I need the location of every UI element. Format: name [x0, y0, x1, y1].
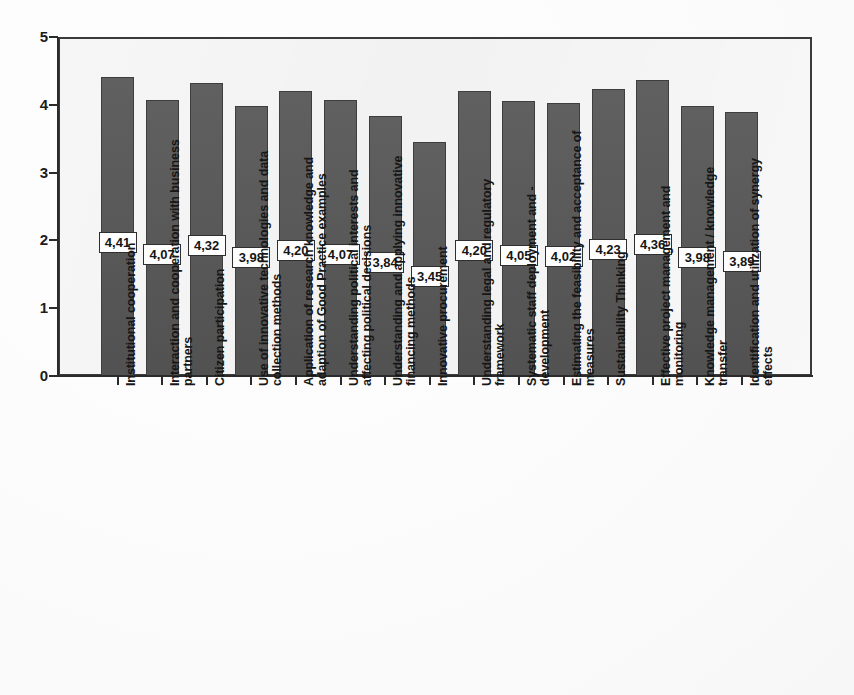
y-axis-line [57, 37, 59, 376]
x-axis-tick [429, 377, 431, 385]
x-axis-category-label[interactable]: Estimating the feasibility and acceptanc… [571, 131, 597, 386]
bar-chart: 012345 4,414,074,323,984,204,073,843,454… [0, 0, 854, 695]
category-label-line: Understanding political interests and [348, 170, 361, 386]
y-axis-tick-label: 0 [22, 368, 48, 383]
category-label-line: adaption of Good Practice examples [316, 157, 329, 386]
y-axis-tick-label: 2 [22, 232, 48, 247]
x-axis-category-label[interactable]: Interaction and cooperation with busines… [169, 139, 195, 386]
x-axis-tick [696, 377, 698, 385]
x-axis-tick [250, 377, 252, 385]
x-axis-tick [117, 377, 119, 385]
x-axis-tick [607, 377, 609, 385]
x-axis-tick [206, 377, 208, 385]
x-axis-category-label[interactable]: Innovative procurement [437, 247, 450, 387]
x-axis-tick [161, 377, 163, 385]
x-axis-tick [340, 377, 342, 385]
category-label-line: Identification and utilization of synerg… [749, 158, 762, 386]
x-axis-tick [384, 377, 386, 385]
category-label-line: collection methods [271, 151, 284, 386]
x-axis-tick [652, 377, 654, 385]
y-axis-tick [49, 104, 58, 106]
x-axis-tick [473, 377, 475, 385]
y-axis-tick-label: 3 [22, 165, 48, 180]
category-label-line: partners [182, 139, 195, 386]
y-axis-tick [49, 239, 58, 241]
x-axis-category-label[interactable]: Understanding legal and regulatoryframew… [481, 179, 507, 386]
category-label-line: Systematic staff deployment and - [526, 186, 539, 386]
y-axis-tick-label: 5 [22, 29, 48, 44]
category-label-line: Effective project management and [660, 186, 673, 386]
x-axis-tick [563, 377, 565, 385]
x-axis-category-label[interactable]: Sustainability Thinking [615, 251, 628, 386]
x-axis-category-label[interactable]: Understanding and applying innovativefin… [392, 156, 418, 386]
x-axis-category-label[interactable]: Knowledge management / knowledgetransfer [704, 167, 730, 386]
y-axis-tick [49, 307, 58, 309]
category-label-line: affecting political decisions [361, 170, 374, 386]
category-label-line: framework [494, 179, 507, 386]
category-label-line: transfer [717, 167, 730, 386]
category-label-line: Institutional cooperation [125, 243, 138, 386]
x-axis-category-label[interactable]: Understanding political interests andaff… [348, 170, 374, 386]
x-axis-tick [295, 377, 297, 385]
y-axis-tick [49, 36, 58, 38]
category-label-line: Application of research knowledge and [303, 157, 316, 386]
x-axis-category-label[interactable]: Application of research knowledge andada… [303, 157, 329, 386]
x-axis-category-label[interactable]: Institutional cooperation [125, 243, 138, 386]
category-label-line: Innovative procurement [437, 247, 450, 387]
category-label-line: Sustainability Thinking [615, 251, 628, 386]
category-label-line: effects [762, 158, 775, 386]
category-label-line: financing methods [405, 156, 418, 386]
y-axis-tick [49, 172, 58, 174]
x-axis-category-label[interactable]: Citizen participation [214, 269, 227, 386]
category-label-line: development [539, 186, 552, 386]
x-axis-tick [741, 377, 743, 385]
category-label-line: measures [584, 131, 597, 386]
category-label-line: Citizen participation [214, 269, 227, 386]
y-axis-tick-label: 4 [22, 97, 48, 112]
y-axis-tick-label: 1 [22, 300, 48, 315]
y-axis-tick [49, 375, 58, 377]
x-axis-category-label[interactable]: Use of innovative technologies and datac… [258, 151, 284, 386]
x-axis-category-label[interactable]: Identification and utilization of synerg… [749, 158, 775, 386]
category-label-line: Estimating the feasibility and acceptanc… [571, 131, 584, 386]
x-axis-category-label[interactable]: Effective project management andmonitori… [660, 186, 686, 386]
category-label-line: monitoring [673, 186, 686, 386]
x-axis-category-label[interactable]: Systematic staff deployment and -develop… [526, 186, 552, 386]
x-axis-tick [518, 377, 520, 385]
